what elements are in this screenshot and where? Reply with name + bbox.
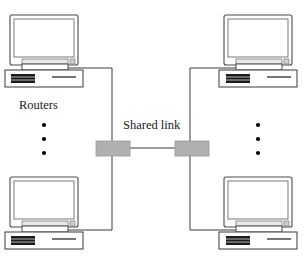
connection-lines: [58, 68, 244, 230]
routers-label: Routers: [19, 99, 58, 112]
monitor-power-button: [70, 59, 75, 64]
ellipsis-dot: [256, 123, 260, 127]
ellipsis-dot: [42, 123, 46, 127]
computer-right-top: [219, 15, 297, 87]
monitor-screen: [228, 181, 288, 219]
right-ellipsis-dots: [256, 123, 260, 155]
ellipsis-dot: [256, 151, 260, 155]
ellipsis-dot: [42, 151, 46, 155]
drive-bay: [11, 236, 35, 245]
monitor-chin: [236, 59, 282, 64]
monitor-screen: [14, 19, 74, 57]
drive-bay: [226, 74, 250, 83]
right-link-connector: [175, 141, 209, 156]
monitor-power-button: [70, 221, 75, 226]
left-link-connector: [96, 141, 130, 156]
computer-left-bottom: [5, 177, 83, 249]
monitor-chin: [22, 221, 68, 226]
shared-link-label: Shared link: [123, 119, 180, 132]
drive-bay: [226, 236, 250, 245]
left-ellipsis-dots: [42, 123, 46, 155]
network-diagram-canvas: Routers Shared link: [0, 0, 304, 263]
monitor-stand: [236, 226, 282, 232]
monitor-stand: [22, 64, 68, 70]
monitor-screen: [14, 181, 74, 219]
ellipsis-dot: [256, 137, 260, 141]
monitor-chin: [22, 59, 68, 64]
ellipsis-dot: [42, 137, 46, 141]
computer-right-bottom: [219, 177, 297, 249]
monitor-stand: [236, 64, 282, 70]
computer-left-top: [5, 15, 83, 87]
monitor-chin: [236, 221, 282, 226]
drive-bay: [11, 74, 35, 83]
monitor-stand: [22, 226, 68, 232]
monitor-power-button: [284, 59, 289, 64]
monitor-power-button: [284, 221, 289, 226]
monitor-screen: [228, 19, 288, 57]
